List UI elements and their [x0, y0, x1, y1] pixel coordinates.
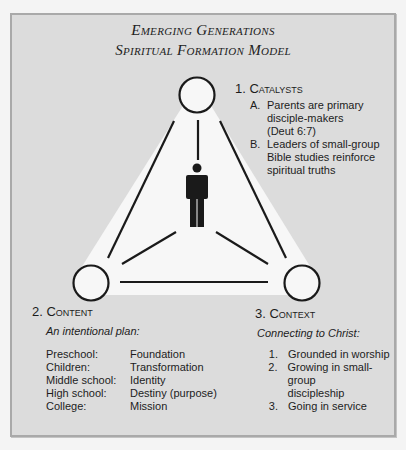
context-item: 1.Grounded in worship — [258, 348, 398, 361]
content-node — [74, 266, 109, 301]
catalysts-list: A. Parents are primary disciple-makers (… — [250, 99, 400, 177]
context-item: 2.Growing in small-groupdiscipleship — [258, 361, 398, 400]
catalysts-heading: 1. Catalysts — [235, 81, 303, 96]
context-subtitle: Connecting to Christ: — [257, 327, 360, 340]
catalysts-item-a: A. Parents are primary disciple-makers (… — [250, 99, 400, 138]
content-row: College:Mission — [46, 400, 217, 413]
catalysts-node — [180, 78, 215, 113]
content-table: Preschool:Foundation Children:Transforma… — [46, 348, 217, 413]
content-row: Children:Transformation — [46, 361, 217, 374]
content-row: High school:Destiny (purpose) — [46, 387, 217, 400]
content-row: Preschool:Foundation — [46, 348, 217, 361]
content-subtitle: An intentional plan: — [46, 325, 140, 338]
content-heading: 2. Content — [32, 304, 93, 319]
context-heading: 3. Context — [255, 306, 315, 321]
catalysts-item-b: B. Leaders of small-group Bible studies … — [250, 138, 400, 177]
context-item: 3.Going in service — [258, 400, 398, 413]
context-list: 1.Grounded in worship 2.Growing in small… — [258, 348, 398, 413]
context-node — [285, 266, 320, 301]
content-row: Middle school:Identity — [46, 374, 217, 387]
